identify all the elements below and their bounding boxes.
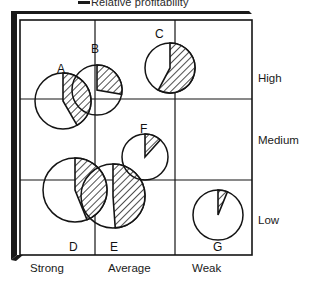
y-axis-tick-medium: Medium <box>258 134 299 146</box>
bubble-label-A: A <box>57 62 65 76</box>
x-axis-tick-strong: Strong <box>30 262 64 274</box>
bubble-label-G: G <box>213 240 222 254</box>
x-axis-tick-average: Average <box>108 262 151 274</box>
y-axis-tick-high: High <box>258 72 282 84</box>
bubble-label-D: D <box>69 240 78 254</box>
bubble-label-F: F <box>140 122 147 136</box>
x-axis-tick-weak: Weak <box>192 262 221 274</box>
bubble-label-E: E <box>110 240 118 254</box>
bubble-label-B: B <box>91 42 99 56</box>
bubble-label-C: C <box>155 27 164 41</box>
frame-and-gridlines <box>20 20 252 255</box>
y-axis-tick-low: Low <box>258 214 279 226</box>
chart-root: Relative profitability HighMediumLow Str… <box>0 0 313 285</box>
plot-frame <box>20 20 252 255</box>
